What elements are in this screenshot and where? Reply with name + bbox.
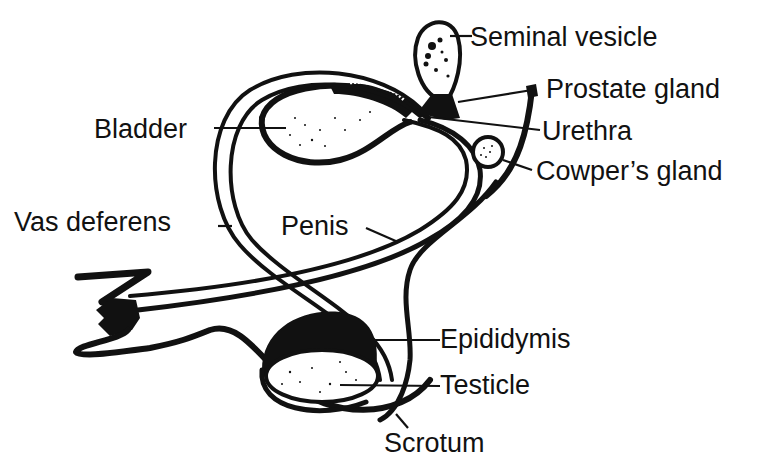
- label-seminal-vesicle: Seminal vesicle: [470, 24, 658, 51]
- label-epididymis: Epididymis: [440, 326, 571, 353]
- reproductive-system-diagram: Seminal vesicle Prostate gland Bladder U…: [0, 0, 782, 465]
- label-urethra: Urethra: [542, 118, 632, 145]
- label-bladder: Bladder: [94, 116, 187, 143]
- testicle-shape: [262, 312, 378, 411]
- label-testicle: Testicle: [440, 372, 530, 399]
- label-scrotum: Scrotum: [384, 430, 485, 457]
- label-cowpers-gland: Cowper’s gland: [536, 158, 723, 185]
- label-prostate-gland: Prostate gland: [546, 76, 720, 103]
- label-penis: Penis: [281, 213, 349, 240]
- label-vas-deferens: Vas deferens: [14, 209, 171, 236]
